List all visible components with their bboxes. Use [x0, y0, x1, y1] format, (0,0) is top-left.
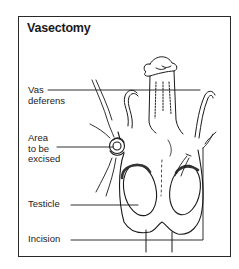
- left-vas-deferens: [124, 90, 138, 128]
- incision-leader: [71, 148, 203, 240]
- cord-strands: [90, 80, 116, 196]
- leader-lines: [48, 90, 203, 240]
- left-testicle-icon: [119, 161, 161, 219]
- right-testicle-icon: [166, 163, 204, 217]
- right-vas-deferens: [195, 91, 215, 138]
- incision-marks: [146, 230, 172, 252]
- anatomy-illustration: [0, 0, 239, 269]
- excision-area-icon: [110, 132, 125, 155]
- shaft-icon: [144, 57, 183, 134]
